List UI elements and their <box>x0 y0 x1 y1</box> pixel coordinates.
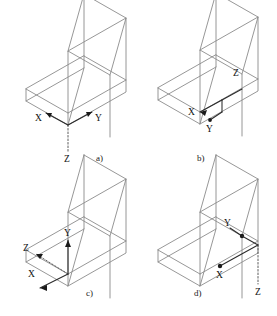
axis-z-label-a: Z <box>64 154 70 164</box>
axis-x-label-d: X <box>216 270 223 280</box>
figure-b: X Y Z <box>150 14 274 154</box>
axis-y-label-a: Y <box>95 113 102 123</box>
lblock-wireframe-c <box>26 155 126 298</box>
axis-x-line2-d <box>220 245 258 266</box>
figure-d-drawing: Y X Z <box>150 178 274 303</box>
figure-a-drawing: X Y Z <box>16 6 140 156</box>
axis-x-line-c <box>40 274 68 288</box>
axis-y-label-b: Y <box>206 124 213 134</box>
axis-z-label-b: Z <box>233 68 239 78</box>
figure-c-caption: c) <box>86 288 93 298</box>
figure-b-drawing: X Y Z <box>150 14 274 154</box>
axes-group-a: X Y Z <box>35 112 102 164</box>
axis-y-label-d: Y <box>224 218 231 228</box>
axis-x-line-b <box>200 100 222 112</box>
axis-x-line-d <box>242 236 258 245</box>
axis-x-dot-d <box>218 264 222 268</box>
axis-z-label-c: Z <box>23 243 29 253</box>
axis-y-dot-b <box>208 118 212 122</box>
figure-c-drawing: Y Z X <box>14 178 138 303</box>
axis-y-line2-b <box>210 112 222 120</box>
lblock-wireframe-d <box>158 155 258 298</box>
figure-c: Y Z X <box>14 178 138 303</box>
figure-a-caption: a) <box>96 153 103 163</box>
axis-x-label-a: X <box>35 113 42 123</box>
axis-x-label-c: X <box>28 269 35 279</box>
figure-a: X Y Z <box>16 6 140 156</box>
axis-y-arrow-c <box>65 240 71 247</box>
figure-d-caption: d) <box>194 288 202 298</box>
axis-z-line-b <box>222 89 242 100</box>
lblock-wireframe-b <box>158 0 258 136</box>
figure-d: Y X Z <box>150 178 274 303</box>
drawing-sheet: X Y Z a) <box>0 0 277 316</box>
axis-y-label-c: Y <box>64 228 71 238</box>
axis-x-label-b: X <box>188 107 195 117</box>
figure-b-caption: b) <box>197 153 205 163</box>
axis-z-label-d: Z <box>255 287 261 297</box>
